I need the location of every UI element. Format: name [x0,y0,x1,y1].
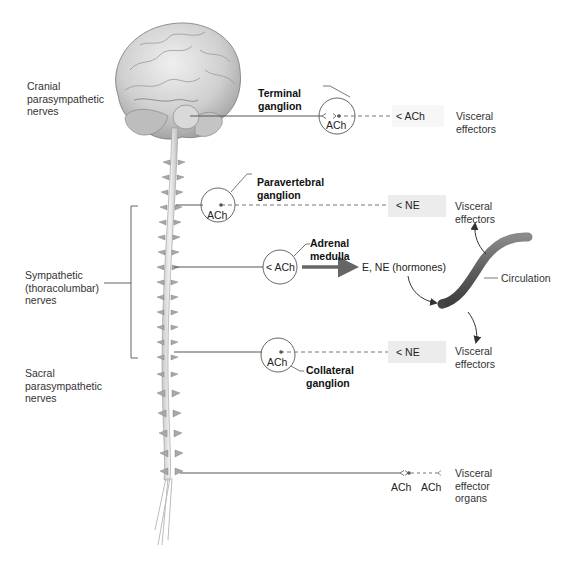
label-line: nerves [25,392,102,405]
nt-text: ACh [274,261,294,273]
terminal-ganglion-nt: ACh [326,119,346,131]
label-line: ganglion [257,189,324,202]
sacral-pathway [180,471,441,476]
label-line: parasympathetic [27,93,104,106]
sympathetic-bracket [104,206,138,358]
label-line: Terminal [258,87,302,100]
spinal-cord-illustration [155,128,185,545]
collateral-target-nt: < NE [396,346,420,358]
nt-text: NE [405,346,420,358]
label-line: effectors [455,358,495,371]
sacral-target-label: Visceral effector organs [455,467,492,505]
label-line: Sacral [25,367,102,380]
adrenal-medulla-label: Adrenal medulla [310,237,350,262]
label-line: effectors [455,213,495,226]
cranial-target-label: Visceral effectors [456,110,496,135]
label-line: Visceral [456,110,496,123]
label-line: medulla [310,250,350,263]
label-line: Collateral [306,364,354,377]
cranial-target-nt: < ACh [396,110,425,122]
label-line: Visceral [455,345,495,358]
collateral-target-label: Visceral effectors [455,345,495,370]
cranial-parasympathetic-label: Cranial parasympathetic nerves [27,80,104,118]
circulation-label: Circulation [501,272,551,285]
paravertebral-ganglion-nt: ACh [207,209,227,221]
label-line: ganglion [258,100,302,113]
collateral-ganglion-label: Collateral ganglion [306,364,354,389]
label-line: effectors [456,123,496,136]
label-line: nerves [27,105,104,118]
label-line: organs [455,492,492,505]
sympathetic-label: Sympathetic (thoracolumbar) nerves [25,269,99,307]
paravertebral-target-nt: < NE [396,199,420,211]
sacral-ganglion-nt: ACh [391,481,411,493]
label-line: effector [455,480,492,493]
label-line: (thoracolumbar) [25,282,99,295]
adrenal-nt: < ACh [266,261,295,273]
collateral-ganglion-nt: ACh [267,356,287,368]
label-line: Paravertebral [257,176,324,189]
label-line: Visceral [455,200,495,213]
label-line: nerves [25,294,99,307]
label-line: Sympathetic [25,269,99,282]
label-line: Cranial [27,80,104,93]
label-line: parasympathetic [25,380,102,393]
ans-diagram: Cranial parasympathetic nerves Sympathet… [0,0,567,564]
brain-illustration [116,23,241,139]
sacral-parasympathetic-label: Sacral parasympathetic nerves [25,367,102,405]
nt-text: ACh [404,110,424,122]
sacral-target-nt: ACh [421,481,441,493]
terminal-ganglion-label: Terminal ganglion [258,87,302,112]
label-line: Adrenal [310,237,350,250]
label-line: ganglion [306,377,354,390]
hormones-output: E, NE (hormones) [362,261,446,273]
nt-text: NE [405,199,420,211]
paravertebral-target-label: Visceral effectors [455,200,495,225]
paravertebral-ganglion-label: Paravertebral ganglion [257,176,324,201]
label-line: Visceral [455,467,492,480]
